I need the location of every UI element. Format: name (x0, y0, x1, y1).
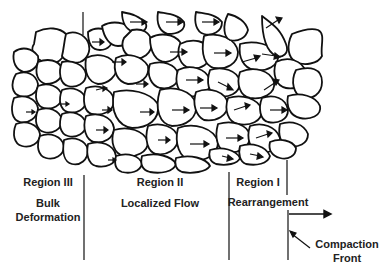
grain (224, 14, 248, 41)
grain (14, 122, 40, 146)
region-iii-description-line1: Bulk (8, 196, 88, 211)
grain (13, 49, 38, 72)
grain (60, 112, 86, 136)
grain (149, 62, 179, 88)
grain (194, 90, 228, 121)
grain (38, 134, 64, 158)
grain (289, 29, 323, 64)
grain (12, 96, 38, 122)
grain (36, 84, 62, 108)
grain (113, 91, 158, 129)
region-i-label: Region I (232, 175, 284, 190)
grain (158, 89, 197, 126)
front-direction-arrow-icon (289, 211, 331, 218)
grain (60, 62, 86, 87)
region-ii-description: Localized Flow (110, 196, 210, 211)
grain (112, 129, 148, 157)
grain (84, 115, 114, 143)
region-ii-label: Region II (120, 175, 200, 190)
leader-arrow-icon (290, 231, 310, 248)
grain (238, 69, 274, 98)
grain (63, 138, 88, 164)
grain (13, 72, 38, 96)
grain (226, 97, 262, 125)
grain (60, 88, 86, 112)
grain (269, 140, 296, 159)
grain (150, 35, 181, 62)
grain (86, 55, 117, 84)
grain (141, 154, 176, 172)
particle-compaction-diagram (0, 0, 386, 275)
grain (36, 60, 62, 84)
grain (36, 108, 62, 132)
region-iii-description-line2: Deformation (8, 210, 88, 225)
region-iii-label: Region III (8, 175, 88, 190)
compaction-front-label-line2: Front (312, 251, 382, 266)
grain (122, 30, 152, 59)
compaction-front-label-line1: Compaction (312, 237, 382, 252)
grain (87, 143, 116, 167)
grain (288, 94, 321, 118)
grain (115, 55, 149, 84)
region-i-description: Rearrangement (220, 195, 316, 210)
grain (115, 154, 142, 172)
